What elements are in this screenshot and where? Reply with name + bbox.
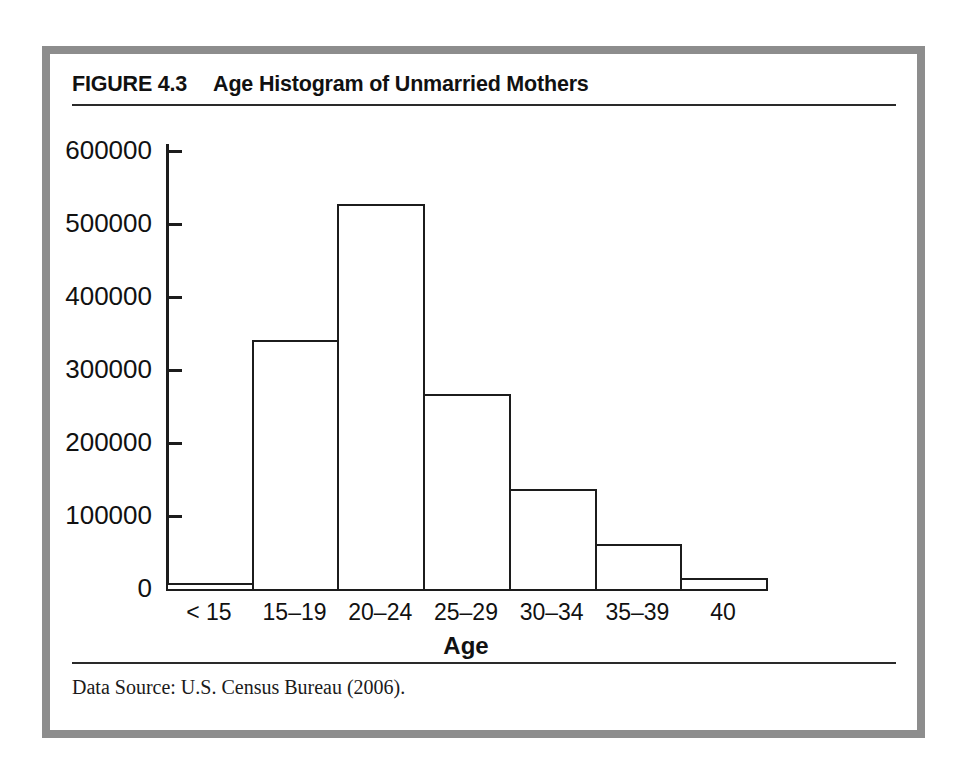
histogram-bar bbox=[166, 583, 254, 591]
x-axis-tick-label: 25–29 bbox=[423, 599, 509, 626]
y-axis-tick-label: 0 bbox=[138, 573, 152, 604]
y-axis-tick bbox=[169, 150, 182, 153]
x-axis-tick-label: 40 bbox=[680, 599, 766, 626]
y-axis-tick bbox=[169, 223, 182, 226]
y-axis-tick bbox=[169, 442, 182, 445]
y-axis-tick bbox=[169, 515, 182, 518]
histogram-bar bbox=[680, 578, 768, 591]
x-axis-title: Age bbox=[166, 632, 766, 660]
histogram-plot: 0100000200000300000400000500000600000 < … bbox=[50, 54, 933, 746]
histogram-bar bbox=[337, 204, 425, 591]
y-axis-tick-label: 200000 bbox=[65, 427, 152, 458]
y-axis-tick-label: 500000 bbox=[65, 208, 152, 239]
x-axis-tick-label: 35–39 bbox=[595, 599, 681, 626]
footer-divider bbox=[72, 662, 896, 664]
histogram-bar bbox=[252, 340, 340, 591]
histogram-bar bbox=[423, 394, 511, 591]
x-axis-tick-label: 30–34 bbox=[509, 599, 595, 626]
histogram-bar bbox=[595, 544, 683, 591]
figure-source-note: Data Source: U.S. Census Bureau (2006). bbox=[72, 676, 405, 699]
y-axis-tick bbox=[169, 369, 182, 372]
y-axis-line bbox=[166, 144, 169, 589]
y-axis-tick-label: 100000 bbox=[65, 500, 152, 531]
y-axis-tick-label: 400000 bbox=[65, 281, 152, 312]
y-axis-tick-label: 600000 bbox=[65, 135, 152, 166]
figure-body: FIGURE 4.3Age Histogram of Unmarried Mot… bbox=[50, 54, 917, 730]
x-axis-tick-label: 15–19 bbox=[252, 599, 338, 626]
histogram-bar bbox=[509, 489, 597, 591]
x-axis-tick-label: < 15 bbox=[166, 599, 252, 626]
figure-frame: FIGURE 4.3Age Histogram of Unmarried Mot… bbox=[42, 46, 925, 738]
y-axis-tick-label: 300000 bbox=[65, 354, 152, 385]
y-axis-tick bbox=[169, 296, 182, 299]
x-axis-tick-label: 20–24 bbox=[337, 599, 423, 626]
